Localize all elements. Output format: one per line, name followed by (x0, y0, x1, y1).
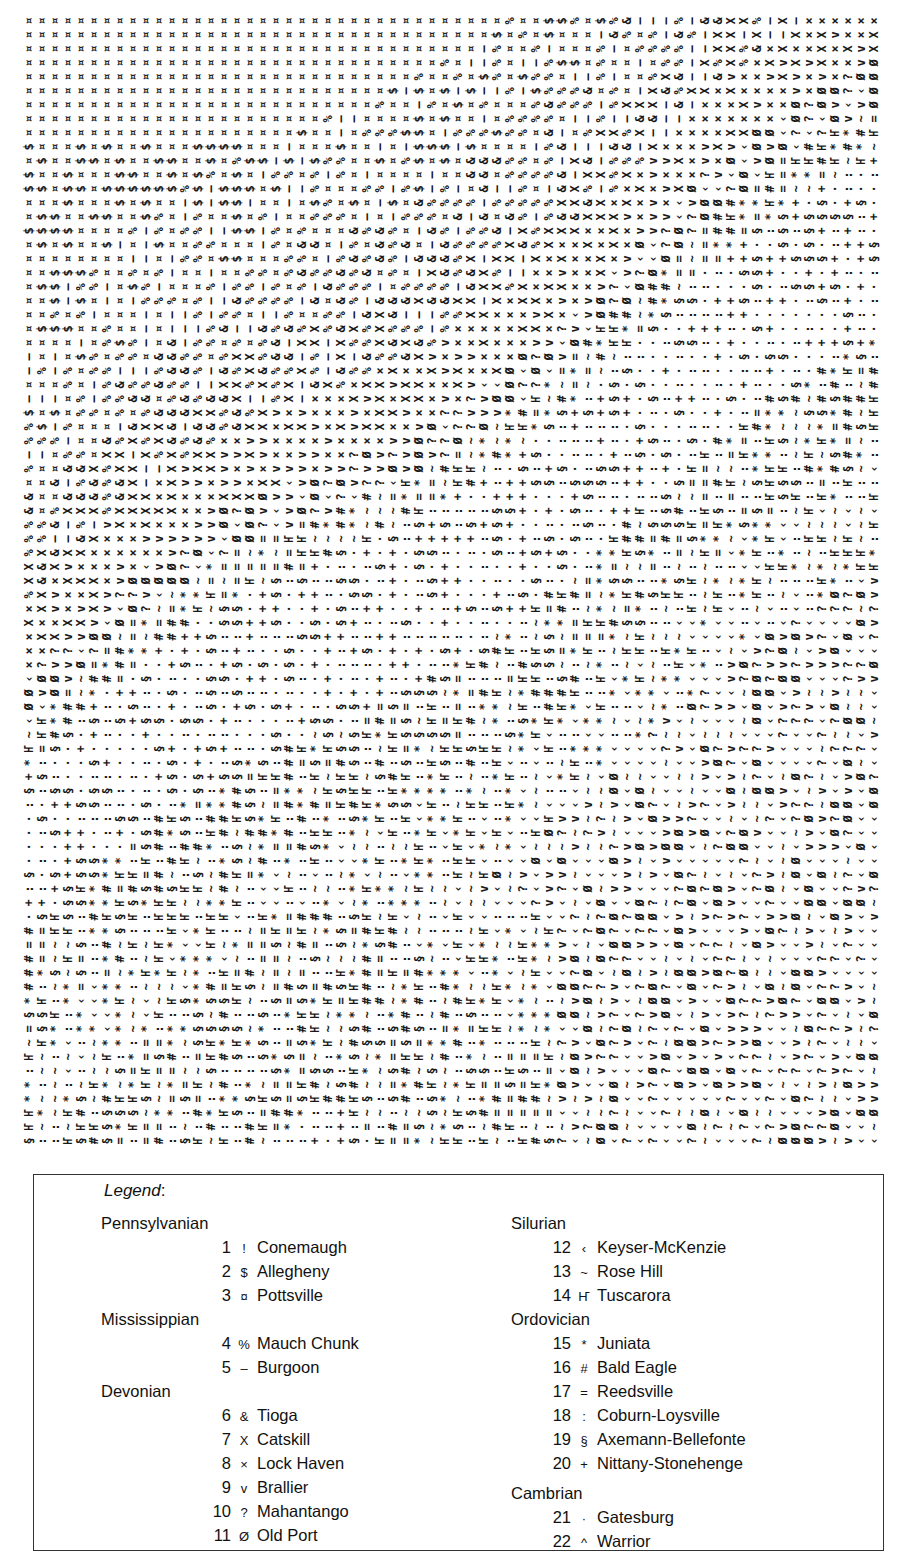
map-cell: $ (87, 210, 100, 224)
map-cell: * (750, 196, 763, 210)
map-cell: # (568, 588, 581, 602)
map-cell: = (243, 770, 256, 784)
map-cell: $ (35, 182, 48, 196)
map-cell: ¤ (126, 70, 139, 84)
map-cell: ~ (672, 770, 685, 784)
legend-title: Legend: (104, 1181, 165, 1201)
map-cell: § (347, 910, 360, 924)
map-cell: & (48, 518, 61, 532)
map-cell: × (659, 168, 672, 182)
map-cell: Ø (555, 980, 568, 994)
map-cell: ~ (750, 1008, 763, 1022)
map-cell: = (243, 868, 256, 882)
map-cell: ¤ (230, 84, 243, 98)
map-cell: v (295, 406, 308, 420)
map-cell: Ҥ (568, 686, 581, 700)
map-cell: Ø (854, 1106, 867, 1120)
map-cell: – (425, 322, 438, 336)
map-cell: ¤ (620, 56, 633, 70)
map-cell: · (295, 700, 308, 714)
map-cell: ? (87, 644, 100, 658)
map-cell: v (815, 1134, 828, 1144)
map-cell: * (412, 1134, 425, 1144)
map-cell: § (464, 518, 477, 532)
map-cell: ‹ (724, 686, 737, 700)
map-cell: § (672, 406, 685, 420)
map-cell: ? (529, 378, 542, 392)
map-cell: & (74, 462, 87, 476)
map-cell: : (269, 1134, 282, 1144)
map-cell: # (607, 616, 620, 630)
map-cell: & (100, 434, 113, 448)
map-cell: § (542, 476, 555, 490)
map-cell: v (724, 1078, 737, 1092)
map-cell: ~ (607, 714, 620, 728)
map-cell: ‹ (412, 798, 425, 812)
map-cell: § (464, 742, 477, 756)
map-cell: : (373, 784, 386, 798)
map-cell: # (165, 854, 178, 868)
map-cell: % (542, 140, 555, 154)
unit-number: 5 (101, 1355, 231, 1379)
map-cell: & (555, 140, 568, 154)
map-cell: ~ (802, 560, 815, 574)
map-cell: ¤ (490, 14, 503, 28)
map-cell: ‹ (100, 616, 113, 630)
map-cell: Ҥ (321, 1036, 334, 1050)
map-cell: X (724, 42, 737, 56)
map-cell: ‹ (139, 994, 152, 1008)
map-cell: & (581, 84, 594, 98)
map-cell: § (555, 672, 568, 686)
map-cell: Ø (594, 294, 607, 308)
map-cell: ‹ (74, 994, 87, 1008)
map-cell: Ø (711, 896, 724, 910)
map-cell: ~ (425, 1120, 438, 1134)
map-cell: · (113, 840, 126, 854)
legend-column-left: Pennsylvanian1!Conemaugh2$Allegheny3¤Pot… (101, 1211, 359, 1547)
map-cell: Ø (646, 980, 659, 994)
map-cell: ~ (165, 980, 178, 994)
map-cell: § (425, 574, 438, 588)
unit-symbol-icon: ? (231, 1501, 257, 1525)
map-cell: – (477, 112, 490, 126)
map-cell: ¤ (412, 168, 425, 182)
map-cell: : (607, 420, 620, 434)
map-cell: v (867, 1092, 880, 1106)
map-cell: Ø (841, 1078, 854, 1092)
map-cell: : (178, 728, 191, 742)
map-cell: × (22, 658, 35, 672)
map-cell: · (776, 336, 789, 350)
map-cell: X (295, 364, 308, 378)
map-cell: · (698, 378, 711, 392)
map-cell: % (321, 308, 334, 322)
map-cell: : (568, 728, 581, 742)
map-cell: # (438, 1050, 451, 1064)
map-cell: Ҥ (412, 882, 425, 896)
map-cell: v (620, 854, 633, 868)
map-cell: Ø (750, 672, 763, 686)
map-cell: · (750, 350, 763, 364)
map-cell: × (113, 532, 126, 546)
map-cell: ¤ (126, 238, 139, 252)
map-cell: + (737, 252, 750, 266)
map-cell: : (854, 210, 867, 224)
map-cell: : (789, 546, 802, 560)
map-cell: : (269, 756, 282, 770)
map-cell: ~ (724, 574, 737, 588)
map-cell: ¤ (74, 238, 87, 252)
map-cell: ~ (841, 686, 854, 700)
map-cell: ¤ (48, 336, 61, 350)
map-cell: – (360, 168, 373, 182)
map-cell: ~ (854, 434, 867, 448)
map-cell: : (685, 280, 698, 294)
map-cell: × (542, 322, 555, 336)
map-cell: – (204, 266, 217, 280)
map-cell: § (35, 1022, 48, 1036)
map-cell: § (776, 476, 789, 490)
map-cell: · (477, 574, 490, 588)
map-cell: % (334, 210, 347, 224)
map-cell: # (165, 1050, 178, 1064)
map-cell: § (633, 420, 646, 434)
map-cell: : (191, 812, 204, 826)
map-cell: = (256, 532, 269, 546)
